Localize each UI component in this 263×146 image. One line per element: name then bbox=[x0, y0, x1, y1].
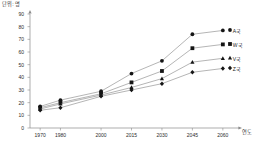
x-tick-label: 2030 bbox=[150, 132, 174, 138]
y-tick-label: 90 bbox=[8, 11, 24, 17]
y-axis-arrow-icon bbox=[28, 10, 31, 13]
y-axis-unit-label: 단위: 명 bbox=[2, 0, 20, 7]
legend-label: Z국 bbox=[233, 65, 241, 72]
data-point-square-marker bbox=[191, 46, 195, 50]
y-tick-label: 40 bbox=[8, 74, 24, 80]
x-tick-label: 2045 bbox=[180, 132, 204, 138]
y-tick-label: 60 bbox=[8, 49, 24, 55]
data-point-square-marker bbox=[130, 81, 134, 85]
data-point-circle-marker bbox=[228, 29, 232, 33]
data-point-diamond-marker bbox=[190, 70, 194, 75]
data-point-circle-marker bbox=[160, 59, 164, 63]
x-tick-label: 2015 bbox=[120, 132, 144, 138]
legend-label: V국 bbox=[233, 55, 241, 62]
y-tick-label: 70 bbox=[8, 36, 24, 42]
y-tick-label: 80 bbox=[8, 24, 24, 30]
data-point-circle-marker bbox=[221, 29, 225, 33]
data-point-triangle-marker bbox=[221, 56, 225, 60]
data-point-square-marker bbox=[228, 42, 232, 46]
x-tick-label: 2060 bbox=[211, 132, 235, 138]
plot-area: 0102030405060708090197019802000201520302… bbox=[30, 14, 233, 128]
x-tick-label: 1980 bbox=[48, 132, 72, 138]
data-point-triangle-marker bbox=[160, 76, 164, 80]
data-point-diamond-marker bbox=[58, 105, 62, 110]
data-point-triangle-marker bbox=[228, 56, 232, 60]
legend-label: W국 bbox=[233, 41, 243, 48]
x-axis-unit-label: 연도 bbox=[242, 128, 252, 135]
legend-label: A국 bbox=[233, 27, 241, 34]
y-tick-label: 0 bbox=[8, 125, 24, 131]
x-tick-label: 2000 bbox=[89, 132, 113, 138]
data-point-circle-marker bbox=[130, 72, 134, 76]
data-point-diamond-marker bbox=[221, 66, 225, 71]
data-point-diamond-marker bbox=[160, 81, 164, 86]
chart-canvas bbox=[30, 14, 233, 128]
y-tick-label: 30 bbox=[8, 87, 24, 93]
data-point-circle-marker bbox=[191, 32, 195, 36]
y-tick-label: 20 bbox=[8, 100, 24, 106]
y-tick-label: 10 bbox=[8, 112, 24, 118]
data-point-square-marker bbox=[160, 69, 164, 73]
y-tick-label: 50 bbox=[8, 62, 24, 68]
line-chart: 단위: 명 연도 0102030405060708090197019802000… bbox=[0, 0, 263, 146]
data-point-diamond-marker bbox=[228, 66, 232, 71]
data-point-square-marker bbox=[221, 43, 225, 47]
series-line-0 bbox=[40, 30, 223, 106]
series-line-1 bbox=[40, 44, 223, 107]
